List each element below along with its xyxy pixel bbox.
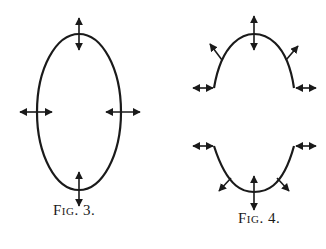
fig4-lower-left-outward-arrow-icon (219, 178, 231, 191)
fig3-caption: Fig. 3. (53, 202, 95, 219)
fig4-lower-right-outward-arrow-icon (277, 178, 289, 191)
fig4-upper-left-outward-arrow-icon (210, 44, 222, 60)
fig3-diagram (20, 18, 140, 206)
fig4-diagram (193, 16, 316, 210)
fig4-caption: Fig. 4. (238, 210, 280, 227)
fig4-upper-right-outward-arrow-icon (286, 46, 298, 60)
